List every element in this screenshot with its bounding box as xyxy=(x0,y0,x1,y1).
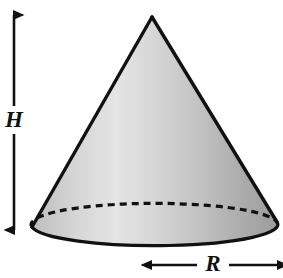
cone-silhouette-fill xyxy=(32,17,278,246)
radius-dimension-label: R xyxy=(198,252,228,275)
cone-body-group xyxy=(31,17,278,246)
height-dimension-label: H xyxy=(0,108,28,131)
cone-diagram-svg xyxy=(0,0,283,278)
cone-figure: H R xyxy=(0,0,283,278)
